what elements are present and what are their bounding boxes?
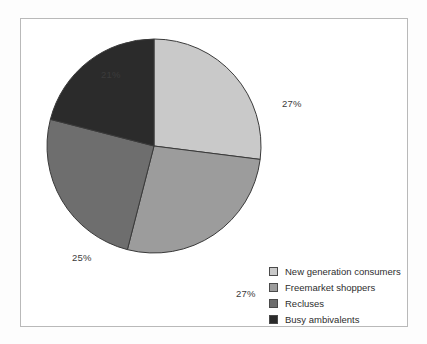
legend-swatch-icon bbox=[269, 283, 278, 292]
pie-chart: 21% 27% 25% 27% bbox=[46, 36, 262, 256]
slice-value-recluses: 25% bbox=[72, 252, 92, 263]
legend-swatch-icon bbox=[269, 299, 278, 308]
pie-slice[interactable] bbox=[154, 39, 261, 159]
pie-svg bbox=[46, 36, 262, 256]
chart-frame: 21% 27% 25% 27% New generation consumers… bbox=[20, 18, 408, 327]
legend-item[interactable]: New generation consumers bbox=[269, 263, 421, 279]
legend-item[interactable]: Recluses bbox=[269, 295, 421, 311]
chart-legend: New generation consumers Freemarket shop… bbox=[269, 263, 421, 327]
pie-slices bbox=[47, 39, 261, 253]
legend-swatch-icon bbox=[269, 267, 278, 276]
legend-item[interactable]: Freemarket shoppers bbox=[269, 279, 421, 295]
legend-item-label: Freemarket shoppers bbox=[285, 282, 375, 293]
slice-value-new-generation-consumers: 27% bbox=[282, 98, 302, 109]
legend-item[interactable]: Busy ambivalents bbox=[269, 311, 421, 327]
legend-item-label: New generation consumers bbox=[285, 266, 401, 277]
slice-value-freemarket-shoppers: 27% bbox=[236, 288, 256, 299]
slice-value-busy-ambivalents: 21% bbox=[101, 69, 121, 80]
legend-swatch-icon bbox=[269, 315, 278, 324]
legend-item-label: Busy ambivalents bbox=[285, 314, 359, 325]
legend-item-label: Recluses bbox=[285, 298, 324, 309]
